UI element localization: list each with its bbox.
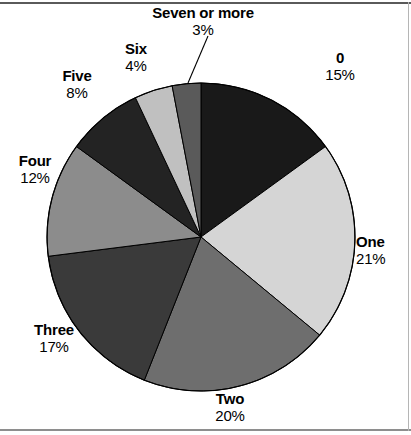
pie-label-three-name: Three bbox=[17, 322, 91, 339]
pie-label-six: Six 4% bbox=[113, 41, 159, 75]
pie-label-four: Four 12% bbox=[4, 153, 66, 187]
pie-label-five-name: Five bbox=[49, 68, 105, 85]
pie-label-four-value: 12% bbox=[4, 170, 66, 187]
pie-label-seven-or-more-value: 3% bbox=[132, 22, 274, 39]
pie-label-seven-or-more-name: Seven or more bbox=[132, 5, 274, 22]
pie-label-six-name: Six bbox=[113, 41, 159, 58]
pie-label-seven-or-more: Seven or more 3% bbox=[132, 5, 274, 39]
pie-label-three: Three 17% bbox=[17, 322, 91, 356]
pie-label-one: One 21% bbox=[356, 234, 410, 268]
pie-label-five-value: 8% bbox=[49, 85, 105, 102]
pie-label-zero-name: 0 bbox=[310, 50, 370, 67]
leader-line-seven-or-more-icon bbox=[188, 36, 208, 83]
pie-chart-figure: 0 15% One 21% Two 20% Three 17% Four 12%… bbox=[0, 0, 411, 435]
pie-label-one-name: One bbox=[356, 234, 410, 251]
pie-label-zero: 0 15% bbox=[310, 50, 370, 84]
pie-label-zero-value: 15% bbox=[310, 67, 370, 84]
pie-label-five: Five 8% bbox=[49, 68, 105, 102]
pie-label-four-name: Four bbox=[4, 153, 66, 170]
pie-label-three-value: 17% bbox=[17, 339, 91, 356]
pie-label-two-value: 20% bbox=[200, 408, 260, 425]
pie-label-two-name: Two bbox=[200, 391, 260, 408]
pie-label-two: Two 20% bbox=[200, 391, 260, 425]
pie-label-six-value: 4% bbox=[113, 58, 159, 75]
pie-label-one-value: 21% bbox=[356, 251, 410, 268]
pie-slices-group bbox=[47, 83, 355, 391]
